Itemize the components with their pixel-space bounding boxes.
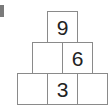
- pyramid-cell-top[interactable]: 9: [47, 11, 78, 43]
- pyramid-cell-middle-right[interactable]: 6: [62, 42, 93, 74]
- pyramid-cell-bottom-left[interactable]: [17, 73, 48, 105]
- pyramid-cell-bottom-right[interactable]: [77, 73, 108, 105]
- pyramid-cell-middle-left[interactable]: [32, 42, 63, 74]
- pyramid-cell-bottom-middle[interactable]: 3: [47, 73, 78, 105]
- question-marker: [0, 5, 4, 17]
